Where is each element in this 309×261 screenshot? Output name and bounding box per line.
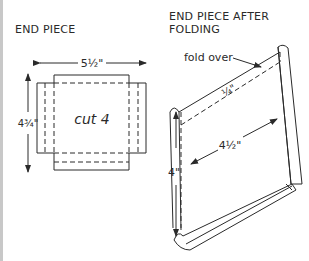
height-label: 4¾" — [18, 118, 39, 129]
diagram-canvas: 5½" 4¾" cut 4 fold over ¼" 4½" 4" — [0, 0, 309, 261]
width-label: 5½" — [81, 57, 104, 70]
seam-allowance-label: ¼" — [220, 82, 238, 99]
folded-width-label: 4½" — [219, 139, 242, 152]
width-arrow-left — [191, 150, 218, 164]
fold-over-label: fold over — [184, 51, 233, 64]
fold-over-arrow — [233, 58, 261, 67]
width-arrow-right — [243, 119, 277, 137]
right-upright — [278, 45, 302, 184]
folded-height-label: 4" — [168, 166, 180, 179]
cut-count-label: cut 4 — [74, 111, 109, 127]
